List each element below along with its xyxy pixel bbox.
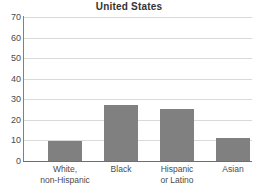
- x-label-line1: Black: [111, 164, 132, 174]
- x-label-line1: White,: [53, 164, 77, 174]
- bar-hispanic-or-latino: [160, 109, 194, 161]
- x-axis-line: [23, 161, 252, 162]
- gridline-30: [24, 99, 252, 100]
- plot-area: [24, 17, 252, 161]
- gridline-20: [24, 120, 252, 121]
- x-label-line1: Asian: [222, 164, 243, 174]
- chart-title: United States: [0, 1, 258, 13]
- y-tick-label: 70: [1, 13, 21, 22]
- bar-asian: [216, 138, 250, 161]
- y-tick-label: 50: [1, 54, 21, 63]
- y-tick-label: 30: [1, 95, 21, 104]
- y-tick-label: 40: [1, 75, 21, 84]
- bar-white-non-hispanic: [48, 141, 82, 161]
- gridline-40: [24, 79, 252, 80]
- gridline-60: [24, 38, 252, 39]
- x-label-line2: or Latino: [133, 175, 221, 186]
- x-label-line2: non-Hispanic: [21, 175, 109, 186]
- bar-black: [104, 105, 138, 161]
- y-tick-label: 20: [1, 116, 21, 125]
- y-tick-label: 10: [1, 136, 21, 145]
- y-axis-tick-labels: 70 60 50 40 30 20 10 0: [0, 17, 21, 161]
- gridline-70: [24, 17, 252, 18]
- gridline-50: [24, 58, 252, 59]
- bar-chart: United States 70 60 50 40 30 20 10 0 Whi…: [0, 0, 258, 192]
- x-label-asian: Asian: [189, 164, 258, 175]
- x-axis-category-labels: White, non-Hispanic Black Hispanic or La…: [24, 164, 252, 192]
- y-tick-label: 0: [1, 157, 21, 166]
- y-tick-label: 60: [1, 34, 21, 43]
